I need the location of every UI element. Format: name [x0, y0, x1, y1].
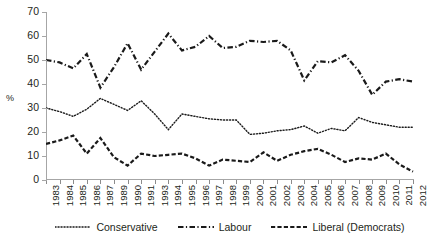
- x-tick-mark: [291, 180, 292, 184]
- x-tick-label: 2006: [335, 185, 346, 206]
- x-tick-mark: [399, 180, 400, 184]
- x-tick-mark: [196, 180, 197, 184]
- legend-item[interactable]: Conservative: [55, 221, 157, 233]
- x-tick-label: 2003: [295, 185, 306, 206]
- x-tick-mark: [114, 180, 115, 184]
- x-tick-label: 1986: [91, 185, 102, 206]
- x-tick-mark: [168, 180, 169, 184]
- y-tick-label: 70: [21, 6, 39, 16]
- x-tick-mark: [223, 180, 224, 184]
- x-tick-label: 2004: [308, 185, 319, 206]
- legend-label: Liberal (Democrats): [312, 221, 404, 233]
- x-tick-label: 2002: [281, 185, 292, 206]
- x-tick-mark: [386, 180, 387, 184]
- y-tick-label: 20: [21, 126, 39, 136]
- x-tick-label: 1984: [64, 185, 75, 206]
- x-tick-label: 1997: [213, 185, 224, 206]
- series-line-labour: [46, 34, 413, 95]
- x-tick-mark: [155, 180, 156, 184]
- x-tick-mark: [372, 180, 373, 184]
- y-tick-mark: [42, 132, 47, 133]
- x-tick-label: 1996: [200, 185, 211, 206]
- x-tick-label: 2008: [363, 185, 374, 206]
- x-tick-mark: [87, 180, 88, 184]
- x-tick-label: 1983: [50, 185, 61, 206]
- x-tick-label: 2012: [417, 185, 428, 206]
- y-tick-mark: [42, 60, 47, 61]
- legend-label: Conservative: [96, 221, 157, 233]
- x-tick-label: 1987: [104, 185, 115, 206]
- legend-swatch-dash-dot: [178, 223, 214, 231]
- x-tick-label: 1994: [172, 185, 183, 206]
- x-tick-mark: [182, 180, 183, 184]
- y-tick-label: 50: [21, 54, 39, 64]
- x-tick-label: 1999: [240, 185, 251, 206]
- y-tick-mark: [42, 36, 47, 37]
- legend-item[interactable]: Liberal (Democrats): [271, 221, 404, 233]
- x-tick-label: 2001: [267, 185, 278, 206]
- x-tick-label: 1998: [227, 185, 238, 206]
- x-tick-mark: [60, 180, 61, 184]
- y-tick-label: 40: [21, 78, 39, 88]
- x-tick-mark: [100, 180, 101, 184]
- x-tick-mark: [318, 180, 319, 184]
- y-tick-mark: [42, 84, 47, 85]
- x-tick-mark: [263, 180, 264, 184]
- x-tick-mark: [331, 180, 332, 184]
- x-tick-mark: [209, 180, 210, 184]
- x-tick-label: 1995: [186, 185, 197, 206]
- y-axis-tick-labels: 010203040506070: [21, 0, 39, 242]
- x-axis-tick-labels: 1983198419851986198719891990199119931994…: [46, 185, 414, 213]
- x-tick-label: 1991: [145, 185, 156, 206]
- legend-swatch-dotted: [55, 223, 91, 231]
- x-tick-label: 2010: [390, 185, 401, 206]
- x-tick-mark: [128, 180, 129, 184]
- x-tick-label: 2005: [322, 185, 333, 206]
- x-tick-label: 2011: [403, 185, 414, 205]
- y-tick-label: 30: [21, 102, 39, 112]
- x-tick-label: 2000: [254, 185, 265, 206]
- y-tick-mark: [42, 12, 47, 13]
- x-tick-label: 1993: [159, 185, 170, 206]
- x-tick-label: 1990: [132, 185, 143, 206]
- x-tick-mark: [73, 180, 74, 184]
- x-tick-mark: [359, 180, 360, 184]
- x-tick-label: 1985: [77, 185, 88, 206]
- x-tick-mark: [141, 180, 142, 184]
- plot-area: [46, 12, 414, 180]
- x-tick-mark: [236, 180, 237, 184]
- legend-item[interactable]: Labour: [178, 221, 252, 233]
- legend-label: Labour: [219, 221, 252, 233]
- chart-legend: ConservativeLabourLiberal (Democrats): [46, 218, 414, 236]
- x-tick-mark: [304, 180, 305, 184]
- x-tick-mark: [345, 180, 346, 184]
- y-tick-label: 60: [21, 30, 39, 40]
- series-line-liberal-democrats: [46, 136, 413, 172]
- y-tick-label: 0: [21, 174, 39, 184]
- x-tick-label: 2009: [376, 185, 387, 206]
- y-tick-mark: [42, 180, 47, 181]
- y-tick-mark: [42, 108, 47, 109]
- y-axis-title: %: [6, 93, 14, 103]
- x-tick-mark: [277, 180, 278, 184]
- legend-swatch-dashed: [271, 223, 307, 231]
- series-canvas: [46, 12, 414, 180]
- y-tick-label: 10: [21, 150, 39, 160]
- series-line-conservative: [46, 98, 413, 134]
- x-tick-label: 1989: [118, 185, 129, 206]
- x-tick-mark: [250, 180, 251, 184]
- x-tick-label: 2007: [349, 185, 360, 206]
- x-tick-mark: [413, 180, 414, 184]
- y-tick-mark: [42, 156, 47, 157]
